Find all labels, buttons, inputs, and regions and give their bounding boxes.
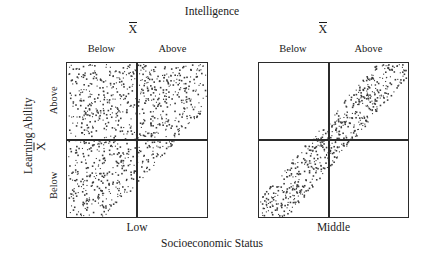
panel-middle-horizontal-mean-line bbox=[259, 139, 408, 141]
panel-low-horizontal-mean-line bbox=[67, 139, 207, 141]
yaxis-mean-marker: X bbox=[34, 129, 47, 165]
panel-middle-column-label-above: Above bbox=[328, 44, 409, 55]
panel-low-mean-marker: X bbox=[108, 22, 158, 35]
panel-low-xlabel: Low bbox=[66, 222, 208, 234]
scatter-figure: Intelligence X X Below Above Below Above… bbox=[0, 0, 424, 255]
panel-middle-column-label-below: Below bbox=[258, 44, 328, 55]
xaxis-title: Socioeconomic Status bbox=[0, 238, 424, 250]
panel-low bbox=[66, 62, 208, 218]
row-label-above: Above bbox=[49, 70, 60, 130]
panel-middle bbox=[258, 62, 409, 218]
panel-middle-mean-marker: X bbox=[298, 22, 348, 35]
mean-symbol-yaxis: X bbox=[34, 142, 47, 151]
row-label-below: Below bbox=[49, 155, 60, 215]
panel-middle-xlabel: Middle bbox=[258, 222, 409, 234]
mean-symbol-low: X bbox=[129, 22, 138, 35]
mean-symbol-middle: X bbox=[319, 22, 328, 35]
chart-title: Intelligence bbox=[0, 6, 424, 18]
panel-low-column-label-above: Above bbox=[137, 44, 208, 55]
panel-low-column-label-below: Below bbox=[66, 44, 137, 55]
